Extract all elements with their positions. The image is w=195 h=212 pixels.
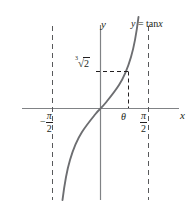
x-tick-label-half-pi: π2 bbox=[140, 111, 147, 134]
x-tick-label-negative-half-pi: −π2 bbox=[40, 111, 53, 134]
y-axis-label: y bbox=[101, 19, 106, 30]
fraction-denominator-two: 2 bbox=[140, 123, 147, 134]
fraction-denominator-two: 2 bbox=[46, 123, 53, 134]
tangent-function-figure: y x y = tanx θ 3√2 −π2 π2 bbox=[0, 0, 195, 212]
plot-canvas bbox=[0, 0, 195, 212]
fraction-pi-over-two: π2 bbox=[140, 111, 147, 134]
curve-equation-rhs: tan bbox=[146, 18, 158, 29]
radical-index: 3 bbox=[75, 55, 78, 61]
radicand: 2 bbox=[83, 57, 90, 69]
x-tick-label-theta: θ bbox=[121, 112, 126, 122]
y-tick-label-cube-root-two: 3√2 bbox=[75, 58, 90, 69]
radical-group: 3√2 bbox=[75, 58, 90, 69]
fraction-pi-over-two: π2 bbox=[46, 111, 53, 134]
fraction-numerator-pi: π bbox=[140, 111, 147, 122]
x-axis-label: x bbox=[180, 110, 185, 121]
curve-equation-label: y = tanx bbox=[131, 19, 163, 29]
curve-equation-variable: x bbox=[158, 18, 162, 29]
curve-equation-equals: = bbox=[135, 18, 146, 29]
fraction-numerator-pi: π bbox=[46, 111, 53, 122]
